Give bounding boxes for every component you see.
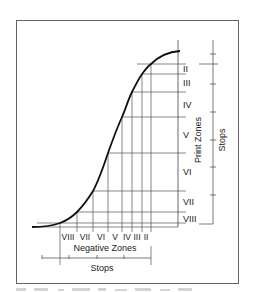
negative-zone-label: II	[144, 232, 149, 242]
print-zone-label: VII	[183, 197, 194, 207]
stops-bottom-title: Stops	[90, 263, 114, 273]
zone-system-diagram: II III IV V VI VII VIII Print Zones Stop…	[0, 0, 253, 292]
negative-zone-label: VI	[97, 232, 105, 242]
print-zone-label: III	[183, 78, 191, 88]
negative-zone-label: VIII	[62, 232, 75, 242]
negative-zone-label: IV	[123, 232, 131, 242]
stops-right-title: Stops	[217, 128, 227, 152]
print-zone-label: II	[183, 64, 188, 74]
caption-fragment	[16, 288, 192, 291]
stops-axis-bottom	[42, 255, 151, 259]
print-zone-gridlines	[32, 64, 186, 227]
print-zones-title: Print Zones	[193, 116, 203, 163]
print-zone-label: VI	[183, 167, 192, 177]
print-zone-label: V	[183, 130, 189, 140]
print-zone-label: IV	[183, 100, 192, 110]
print-zone-label: VIII	[183, 214, 197, 224]
negative-zone-label: III	[133, 232, 140, 242]
characteristic-curve	[32, 51, 180, 227]
negative-zone-label: VII	[80, 232, 90, 242]
negative-zones-title: Negative Zones	[73, 243, 137, 253]
negative-zone-label: V	[112, 232, 118, 242]
